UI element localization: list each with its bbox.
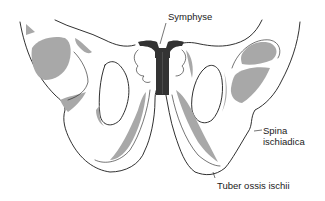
right-acetabulum-shade-lower: [231, 67, 270, 103]
right-obturator-foramen: [192, 65, 223, 122]
spina-leader-line: [254, 130, 262, 131]
symphyse-leader-line: [160, 23, 166, 44]
label-tuber: Tuber ossis ischii: [217, 180, 290, 191]
label-spina-line2: ischiadica: [263, 136, 305, 147]
left-upper-wing-shade: [26, 24, 35, 35]
pelvis-diagram: [0, 0, 325, 201]
right-ramus-shade: [176, 90, 218, 162]
right-medial-shade: [186, 50, 193, 78]
right-acetabulum-shade-upper: [241, 42, 277, 65]
left-lower-shade: [60, 92, 86, 112]
left-obturator-foramen: [99, 62, 129, 125]
label-symphyse: Symphyse: [168, 11, 212, 22]
tuber-leader-line: [213, 172, 215, 178]
left-pubis-texture: [134, 50, 150, 83]
right-pubis-texture: [176, 50, 186, 76]
right-upper-contour: [180, 20, 262, 46]
left-acetabulum-shade: [32, 37, 71, 80]
left-medial-shade: [75, 38, 92, 53]
label-spina-line1: Spina: [263, 125, 287, 136]
